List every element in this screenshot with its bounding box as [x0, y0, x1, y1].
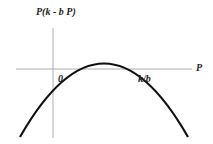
kb-label: k/b — [138, 73, 151, 84]
origin-label: 0 — [58, 73, 63, 84]
parabola-curve — [20, 64, 188, 138]
parabola-diagram — [0, 0, 213, 144]
x-axis-label: P — [196, 62, 202, 73]
y-axis-label: P(k - b P) — [36, 6, 76, 17]
